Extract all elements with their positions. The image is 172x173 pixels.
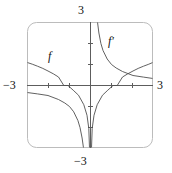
x-axis-min-label: −3 [3,79,16,91]
curve-label-f-prime: f′ [108,35,114,47]
plot-area [0,0,172,173]
figure-container: 3 −3 −3 3 f f′ [0,0,172,173]
y-axis-min-label: −3 [74,155,87,167]
x-axis-max-label: 3 [157,79,163,91]
y-axis-max-label: 3 [78,4,84,16]
curve-label-f: f [48,50,51,62]
